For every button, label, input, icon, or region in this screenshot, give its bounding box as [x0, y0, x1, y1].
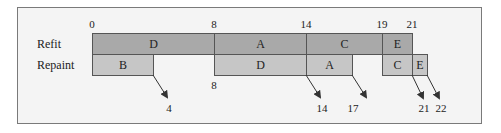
arrow-21-icon	[412, 75, 423, 98]
arrow-22-icon	[427, 75, 439, 98]
end-label-21: 21	[419, 103, 430, 114]
arrow-14-icon	[306, 75, 320, 97]
end-label-14: 14	[317, 103, 328, 114]
end-label-4: 4	[166, 103, 172, 114]
end-label-17: 17	[348, 103, 359, 114]
arrow-17-icon	[352, 75, 366, 97]
end-label-22: 22	[436, 103, 447, 114]
arrow-4-icon	[153, 75, 167, 97]
